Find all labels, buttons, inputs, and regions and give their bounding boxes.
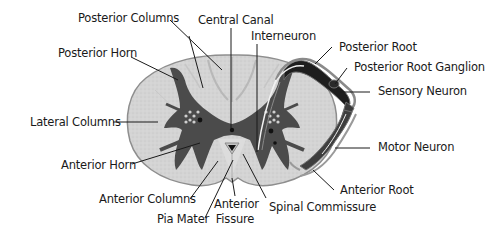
label-anterior-fissure: Anterior Fissure <box>214 198 256 226</box>
label-interneuron: Interneuron <box>251 30 316 43</box>
label-pia-mater: Pia Mater <box>157 213 209 226</box>
leader-anterior-root <box>313 170 334 190</box>
leader-posterior-root <box>315 47 332 64</box>
label-sensory-neuron: Sensory Neuron <box>378 85 467 98</box>
label-posterior-root-ganglion: Posterior Root Ganglion <box>354 61 485 74</box>
label-anterior-horn: Anterior Horn <box>61 159 136 172</box>
label-central-canal: Central Canal <box>198 14 274 27</box>
central-canal <box>230 128 234 132</box>
label-posterior-root: Posterior Root <box>339 41 417 54</box>
label-anterior-fissure-line2: Fissure <box>214 213 256 226</box>
label-spinal-commissure: Spinal Commissure <box>269 201 376 214</box>
label-anterior-root: Anterior Root <box>340 184 414 197</box>
label-anterior-fissure-line1: Anterior <box>214 198 256 211</box>
label-posterior-columns: Posterior Columns <box>78 12 179 25</box>
label-lateral-columns: Lateral Columns <box>30 116 121 129</box>
label-posterior-horn: Posterior Horn <box>58 47 137 60</box>
label-motor-neuron: Motor Neuron <box>378 141 454 154</box>
label-anterior-columns: Anterior Columns <box>99 193 196 206</box>
